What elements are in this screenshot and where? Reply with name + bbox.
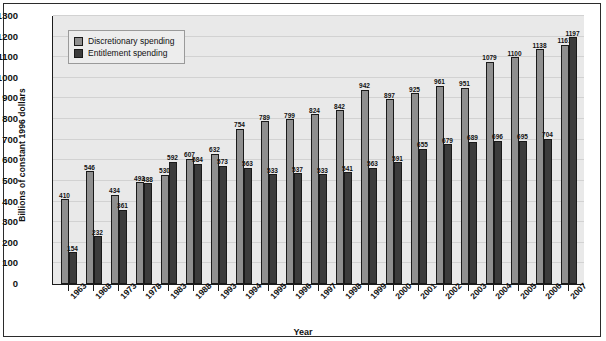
x-axis-tick-mark [93, 284, 94, 291]
bar-entitlement[interactable]: 1197 [569, 37, 577, 284]
bar-discretionary[interactable]: 1079 [486, 62, 494, 284]
bar-discretionary[interactable]: 789 [261, 121, 269, 284]
bar-entitlement[interactable]: 695 [519, 141, 527, 284]
bar-discretionary[interactable]: 754 [236, 129, 244, 284]
bar-chart: Billions of constant 1996 dollars 010020… [0, 0, 606, 341]
bar-discretionary[interactable]: 951 [461, 88, 469, 284]
bar-value-label: 842 [334, 104, 345, 111]
bar-group: 1138704 [531, 16, 556, 284]
bar-value-label: 695 [517, 134, 528, 141]
bar-group: 789533 [256, 16, 281, 284]
x-axis-tick-mark [293, 284, 294, 291]
bar-entitlement[interactable]: 704 [544, 139, 552, 284]
legend-item-discretionary: Discretionary spending [74, 35, 174, 47]
bar-value-label: 154 [67, 246, 78, 253]
bar-entitlement[interactable]: 533 [319, 174, 327, 284]
y-axis-tick-label: 0 [0, 279, 18, 289]
bar-value-label: 1100 [507, 51, 521, 58]
bar-entitlement[interactable]: 689 [469, 142, 477, 284]
bar-entitlement[interactable]: 488 [144, 183, 152, 284]
bar-group: 824533 [306, 16, 331, 284]
bar-group: 842541 [331, 16, 356, 284]
bar-entitlement[interactable]: 696 [494, 141, 502, 284]
x-axis-tick-mark [143, 284, 144, 291]
x-axis-title: Year [0, 327, 606, 337]
bar-entitlement[interactable]: 655 [419, 149, 427, 284]
bar-value-label: 754 [234, 122, 245, 129]
bar-group: 1100695 [506, 16, 531, 284]
y-axis-tick-label: 1100 [0, 52, 18, 62]
bar-discretionary[interactable]: 1161 [561, 45, 569, 284]
legend-swatch-discretionary-icon [74, 37, 83, 46]
bar-value-label: 546 [84, 165, 95, 172]
bar-value-label: 789 [259, 115, 270, 122]
y-axis-tick-label: 800 [0, 114, 18, 124]
bar-value-label: 563 [242, 161, 253, 168]
bar-value-label: 533 [267, 168, 278, 175]
bar-value-label: 232 [92, 230, 103, 237]
bar-value-label: 897 [384, 93, 395, 100]
bar-entitlement[interactable]: 563 [369, 168, 377, 284]
bar-entitlement[interactable]: 361 [119, 210, 127, 284]
bar-value-label: 537 [292, 167, 303, 174]
bar-entitlement[interactable]: 584 [194, 164, 202, 284]
bar-entitlement[interactable]: 533 [269, 174, 277, 284]
y-axis-tick-label: 300 [0, 217, 18, 227]
y-axis-tick-label: 100 [0, 258, 18, 268]
bar-group: 897591 [381, 16, 406, 284]
bar-entitlement[interactable]: 573 [219, 166, 227, 284]
bar-value-label: 533 [317, 168, 328, 175]
bar-value-label: 584 [192, 157, 203, 164]
y-axis-tick-label: 400 [0, 197, 18, 207]
x-axis-tick-mark [168, 284, 169, 291]
bar-value-label: 410 [59, 193, 70, 200]
bar-discretionary[interactable]: 897 [386, 99, 394, 284]
legend-item-entitlement: Entitlement spending [74, 47, 174, 59]
bar-value-label: 541 [342, 166, 353, 173]
bar-discretionary[interactable]: 842 [336, 110, 344, 284]
bar-discretionary[interactable]: 410 [61, 199, 69, 284]
bar-discretionary[interactable]: 961 [436, 86, 444, 284]
bar-group: 11611197 [556, 16, 581, 284]
x-axis-tick-mark [518, 284, 519, 291]
bar-value-label: 696 [492, 134, 503, 141]
bar-discretionary[interactable]: 493 [136, 182, 144, 284]
bar-discretionary[interactable]: 925 [411, 93, 419, 284]
bar-entitlement[interactable]: 592 [169, 162, 177, 284]
bar-value-label: 679 [442, 138, 453, 145]
legend-swatch-entitlement-icon [74, 49, 83, 58]
bar-value-label: 632 [209, 147, 220, 154]
x-axis-tick-mark [443, 284, 444, 291]
bar-entitlement[interactable]: 563 [244, 168, 252, 284]
bar-group: 951689 [456, 16, 481, 284]
x-axis-tick-mark [193, 284, 194, 291]
bar-discretionary[interactable]: 1138 [536, 49, 544, 284]
y-axis-tick-label: 1300 [0, 11, 18, 21]
bar-discretionary[interactable]: 942 [361, 90, 369, 284]
y-axis-tick-label: 700 [0, 135, 18, 145]
bar-value-label: 592 [167, 155, 178, 162]
bar-value-label: 1197 [565, 31, 579, 38]
bar-entitlement[interactable]: 154 [69, 252, 77, 284]
y-axis-title: Billions of constant 1996 dollars [17, 45, 27, 265]
bar-entitlement[interactable]: 679 [444, 144, 452, 284]
legend-label-entitlement: Entitlement spending [88, 48, 167, 58]
bar-value-label: 563 [367, 161, 378, 168]
bar-discretionary[interactable]: 530 [161, 175, 169, 284]
bar-discretionary[interactable]: 1100 [511, 57, 519, 284]
x-axis-tick-mark [543, 284, 544, 291]
bar-entitlement[interactable]: 537 [294, 173, 302, 284]
bar-discretionary[interactable]: 607 [186, 159, 194, 284]
bar-value-label: 799 [284, 113, 295, 120]
bar-entitlement[interactable]: 591 [394, 162, 402, 284]
bar-discretionary[interactable]: 632 [211, 154, 219, 284]
bar-discretionary[interactable]: 799 [286, 119, 294, 284]
bar-entitlement[interactable]: 541 [344, 172, 352, 284]
legend-label-discretionary: Discretionary spending [88, 36, 174, 46]
bar-value-label: 488 [142, 177, 153, 184]
bar-discretionary[interactable]: 824 [311, 114, 319, 284]
bar-value-label: 704 [542, 132, 553, 139]
bar-entitlement[interactable]: 232 [94, 236, 102, 284]
x-axis-tick-mark [68, 284, 69, 291]
bar-group: 961679 [431, 16, 456, 284]
